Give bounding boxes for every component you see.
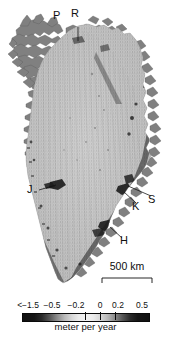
leader-line-J [39, 185, 56, 190]
colorbar-unit-label: meter per year [0, 321, 171, 332]
map-label-R: R [71, 8, 79, 19]
colorbar: <−1.5 −0.5 −0.2 0 0.2 0.5 meter per year [0, 300, 171, 340]
map-label-H: H [120, 235, 128, 246]
label-leader-lines [0, 0, 171, 344]
greenland-elevation-change-figure: P R J K S H 500 km <−1.5 −0.5 −0.2 0 0.2… [0, 0, 171, 344]
colorbar-tick-label-0: <−1.5 [17, 300, 39, 310]
colorbar-tick-marks [0, 312, 171, 321]
colorbar-tick-label-5: 0.5 [136, 300, 148, 310]
colorbar-tick-mark-1 [100, 312, 101, 320]
colorbar-tick-mark-0 [85, 312, 86, 320]
colorbar-tick-label-4: 0.2 [112, 300, 124, 310]
map-label-P: P [53, 10, 60, 21]
map-label-J: J [27, 184, 33, 195]
scale-bar: 500 km [98, 260, 156, 286]
map-label-S: S [148, 194, 155, 205]
colorbar-tick-labels: <−1.5 −0.5 −0.2 0 0.2 0.5 [0, 300, 171, 312]
map-label-K: K [132, 201, 139, 212]
colorbar-tick-mark-2 [115, 312, 116, 320]
colorbar-tick-label-3: 0 [98, 300, 103, 310]
scale-bar-graphic [98, 260, 156, 286]
colorbar-tick-label-1: −0.5 [44, 300, 61, 310]
colorbar-tick-label-2: −0.2 [68, 300, 85, 310]
